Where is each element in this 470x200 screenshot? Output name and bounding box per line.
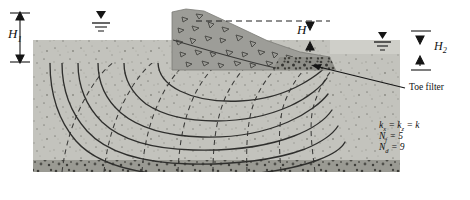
upstream-reservoir	[33, 12, 173, 40]
h-label: H	[297, 23, 306, 37]
soil-properties-annotation: kx = kz = k Nf = 5 Nd = 9	[379, 120, 419, 153]
nd-equation: Nd = 9	[379, 142, 419, 153]
permeability-equation: kx = kz = k	[379, 120, 419, 131]
nf-equation: Nf = 5	[379, 131, 419, 142]
diagram-canvas	[0, 0, 470, 200]
earth-dam-flow-net-figure: H1 H H2 Toe filter kx = kz = k Nf = 5 Nd…	[0, 0, 470, 200]
h-dimension	[306, 22, 314, 52]
h1-label: H1	[8, 27, 22, 44]
toe-filter-label: Toe filter	[409, 83, 444, 93]
h2-label: H2	[434, 40, 447, 56]
h2-dimension	[411, 31, 431, 70]
impervious-base-layer	[33, 160, 400, 172]
toe-filter-region	[272, 57, 336, 70]
